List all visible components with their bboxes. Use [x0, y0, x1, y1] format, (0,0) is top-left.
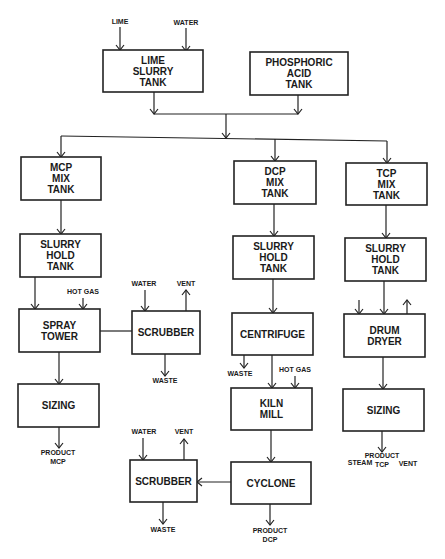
- unit-label: TANK: [47, 261, 75, 272]
- unit-label: MILL: [260, 409, 283, 420]
- unit-label: MIX: [266, 177, 284, 188]
- stream-label-vent-drum: VENT: [399, 460, 418, 467]
- process-units: LIMESLURRYTANKPHOSPHORICACIDTANKMCPMIXTA…: [18, 50, 427, 504]
- unit-kiln-mill: KILNMILL: [231, 388, 312, 430]
- stream-label-hot-gas-kiln: HOT GAS: [279, 366, 311, 373]
- unit-label: SCRUBBER: [138, 327, 195, 338]
- stream-label-product-mcp-2: MCP: [50, 458, 66, 465]
- unit-label: TOWER: [41, 331, 79, 342]
- stream-label-waste-scrubber-2: WASTE: [151, 526, 176, 533]
- stream-label-product-tcp-1: PRODUCT: [365, 452, 400, 459]
- unit-label: LIME: [141, 55, 165, 66]
- unit-label: TANK: [372, 265, 400, 276]
- unit-label: TCP: [377, 168, 397, 179]
- unit-label: DRUM: [370, 325, 400, 336]
- unit-scrubber-2: SCRUBBER: [130, 460, 197, 502]
- unit-label: TANK: [261, 188, 289, 199]
- unit-label: HOLD: [371, 254, 399, 265]
- stream-label-waste-scrubber-1: WASTE: [153, 377, 178, 384]
- unit-dcp-slurry-hold-tank: SLURRYHOLDTANK: [233, 236, 314, 279]
- unit-spray-tower: SPRAYTOWER: [19, 309, 100, 352]
- unit-label: CYCLONE: [247, 478, 296, 489]
- unit-label: PHOSPHORIC: [265, 57, 332, 68]
- stream-label-vent-scrubber-2: VENT: [175, 428, 194, 435]
- stream-label-water-scrubber-1: WATER: [132, 280, 157, 287]
- stream-label-product-dcp-2: DCP: [263, 536, 278, 543]
- unit-label: SLURRY: [253, 241, 294, 252]
- unit-label: TANK: [139, 77, 167, 88]
- unit-label: DCP: [264, 166, 285, 177]
- unit-dcp-mix-tank: DCPMIXTANK: [234, 161, 316, 204]
- stream-label-product-dcp-1: PRODUCT: [253, 527, 288, 534]
- stream-label-product-tcp-2: TCP: [375, 461, 389, 468]
- unit-label: MIX: [378, 179, 396, 190]
- unit-mcp-sizing: SIZING: [18, 384, 99, 427]
- stream-label-lime-in: LIME: [112, 18, 129, 25]
- unit-label: TANK: [285, 79, 313, 90]
- unit-tcp-mix-tank: TCPMIXTANK: [346, 163, 427, 205]
- stream-label-vent-scrubber-1: VENT: [177, 280, 196, 287]
- unit-label: MIX: [52, 173, 70, 184]
- stream-label-water-scrubber-2: WATER: [132, 428, 157, 435]
- unit-label: SIZING: [42, 400, 76, 411]
- stream-label-waste-centrifuge: WASTE: [228, 370, 253, 377]
- stream-label-steam-drum: STEAM: [348, 459, 373, 466]
- unit-mcp-slurry-hold-tank: SLURRYHOLDTANK: [20, 234, 101, 277]
- unit-label: DRYER: [367, 336, 402, 347]
- unit-tcp-slurry-hold-tank: SLURRYHOLDTANK: [345, 238, 426, 281]
- process-flow-diagram: LIMESLURRYTANKPHOSPHORICACIDTANKMCPMIXTA…: [0, 0, 445, 559]
- unit-cyclone: CYCLONE: [231, 462, 311, 504]
- unit-label: CENTRIFUGE: [240, 329, 305, 340]
- unit-tcp-sizing: SIZING: [343, 389, 424, 431]
- diagram-canvas: LIMESLURRYTANKPHOSPHORICACIDTANKMCPMIXTA…: [0, 0, 445, 559]
- unit-label: TANK: [47, 184, 75, 195]
- unit-mcp-mix-tank: MCPMIXTANK: [21, 157, 101, 200]
- unit-label: SIZING: [367, 405, 401, 416]
- unit-label: TANK: [373, 190, 401, 201]
- stream-label-water-in: WATER: [174, 19, 199, 26]
- unit-label: KILN: [260, 398, 283, 409]
- unit-label: SLURRY: [365, 243, 406, 254]
- unit-label: SPRAY: [43, 320, 77, 331]
- unit-centrifuge: CENTRIFUGE: [232, 313, 313, 355]
- unit-label: HOLD: [259, 252, 287, 263]
- unit-label: SCRUBBER: [135, 476, 192, 487]
- unit-label: ACID: [287, 68, 311, 79]
- unit-label: TANK: [260, 263, 288, 274]
- unit-label: SLURRY: [133, 66, 174, 77]
- unit-drum-dryer: DRUMDRYER: [344, 314, 425, 357]
- unit-lime-slurry-tank: LIMESLURRYTANK: [103, 50, 203, 92]
- unit-label: SLURRY: [40, 239, 81, 250]
- stream-label-product-mcp-1: PRODUCT: [41, 449, 76, 456]
- stream-label-hot-gas-spray: HOT GAS: [67, 288, 99, 295]
- unit-scrubber-1: SCRUBBER: [132, 311, 200, 354]
- unit-label: HOLD: [46, 250, 74, 261]
- unit-label: MCP: [50, 162, 73, 173]
- unit-phosphoric-acid-tank: PHOSPHORICACIDTANK: [250, 52, 348, 95]
